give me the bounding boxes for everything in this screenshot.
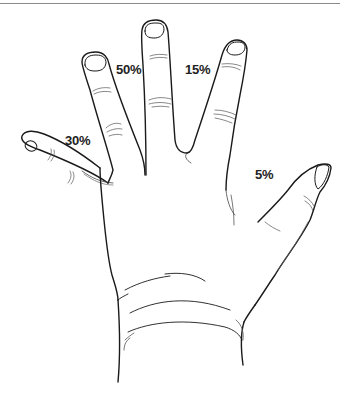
- ring-percent-label: 50%: [116, 63, 141, 76]
- middle-finger: [142, 20, 187, 175]
- wrist: [118, 273, 244, 382]
- palm: [100, 168, 255, 322]
- pinky-percent-label: 30%: [65, 134, 90, 147]
- hand-illustration: [0, 0, 349, 396]
- thumb: [255, 164, 331, 305]
- thumb-percent-label: 5%: [255, 168, 273, 181]
- index-percent-label: 15%: [185, 63, 210, 76]
